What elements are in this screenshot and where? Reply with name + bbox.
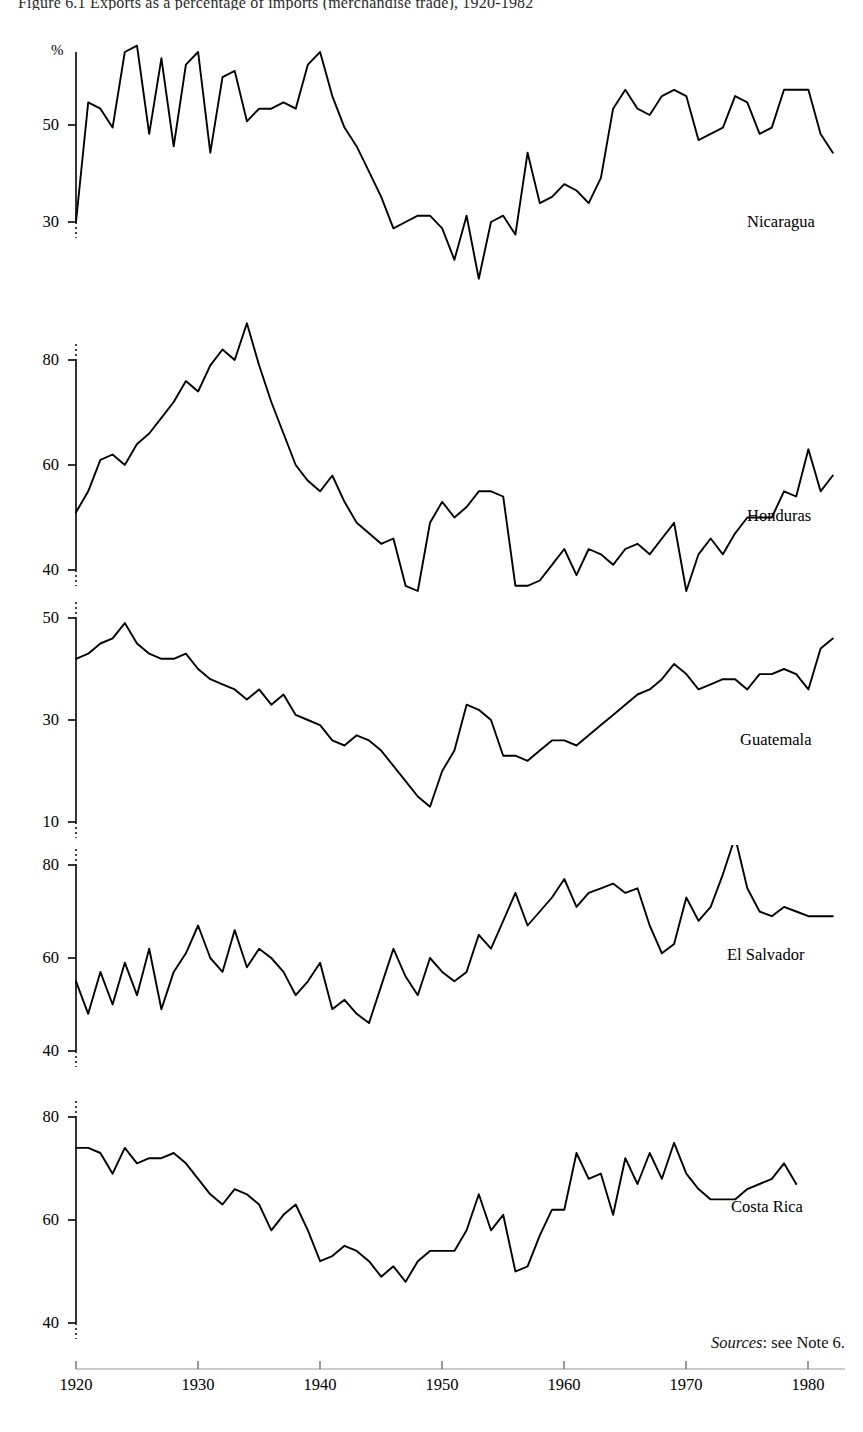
nicaragua-ytick-50: 50 — [25, 115, 59, 135]
figure-title: Figure 6.1 Exports as a percentage of im… — [18, 0, 848, 10]
panel-guatemala: 50 30 10 Guatemala — [0, 596, 863, 846]
costa-rica-ytick-60: 60 — [25, 1210, 59, 1230]
xtick-1980: 1980 — [780, 1375, 836, 1395]
honduras-axis — [68, 344, 76, 586]
nicaragua-axis — [68, 52, 76, 238]
guatemala-series — [76, 623, 833, 807]
el-salvador-series — [76, 845, 833, 1023]
costa-rica-ytick-40: 40 — [25, 1313, 59, 1333]
guatemala-ytick-10: 10 — [25, 812, 59, 832]
xtick-1920: 1920 — [48, 1375, 104, 1395]
el-salvador-ytick-60: 60 — [25, 948, 59, 968]
xtick-1970: 1970 — [658, 1375, 714, 1395]
nicaragua-series — [76, 46, 833, 279]
panel-label-guatemala: Guatemala — [740, 730, 811, 750]
sources-text: : see Note 6. — [763, 1333, 845, 1352]
panel-label-costa-rica: Costa Rica — [731, 1197, 803, 1217]
figure-root: Figure 6.1 Exports as a percentage of im… — [0, 0, 863, 1432]
panel-nicaragua: % 50 30 Nicaragua — [0, 30, 863, 320]
costa-rica-ytick-80: 80 — [25, 1107, 59, 1127]
x-axis: 1920 1930 1940 1950 1960 1970 1980 — [0, 1355, 863, 1425]
panel-costa-rica: 80 60 40 Costa Rica — [0, 1095, 863, 1345]
nicaragua-plot — [0, 30, 863, 320]
panel-label-el-salvador: El Salvador — [727, 945, 804, 965]
nicaragua-ytick-30: 30 — [25, 212, 59, 232]
honduras-ytick-40: 40 — [25, 560, 59, 580]
costa-rica-plot — [0, 1095, 863, 1345]
guatemala-ytick-50: 50 — [25, 608, 59, 628]
honduras-series — [76, 323, 833, 591]
xtick-1960: 1960 — [536, 1375, 592, 1395]
xtick-1930: 1930 — [170, 1375, 226, 1395]
honduras-ytick-80: 80 — [25, 350, 59, 370]
xtick-1950: 1950 — [414, 1375, 470, 1395]
el-salvador-ytick-40: 40 — [25, 1041, 59, 1061]
panel-honduras: 80 60 40 Honduras — [0, 322, 863, 602]
el-salvador-axis — [68, 849, 76, 1067]
sources-label: Sources — [711, 1333, 763, 1352]
guatemala-ytick-30: 30 — [25, 710, 59, 730]
nicaragua-y-unit: % — [51, 42, 64, 59]
guatemala-plot — [0, 596, 863, 846]
panel-label-honduras: Honduras — [747, 506, 811, 526]
costa-rica-series — [76, 1143, 796, 1282]
panel-label-nicaragua: Nicaragua — [747, 212, 815, 232]
honduras-ytick-60: 60 — [25, 455, 59, 475]
panel-el-salvador: 80 60 40 El Salvador — [0, 845, 863, 1075]
sources-note: Sources: see Note 6. — [711, 1333, 845, 1353]
honduras-plot — [0, 322, 863, 602]
costa-rica-axis — [68, 1101, 76, 1339]
el-salvador-ytick-80: 80 — [25, 855, 59, 875]
xtick-1940: 1940 — [292, 1375, 348, 1395]
guatemala-axis — [68, 602, 76, 838]
